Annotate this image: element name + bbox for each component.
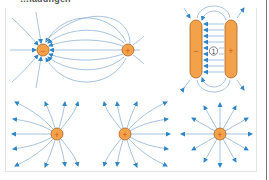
pair-right-sign: +	[122, 130, 127, 140]
capacitor-marker-label: 1	[212, 48, 216, 55]
field-lines-figure: − + − + 1	[0, 0, 269, 180]
pair-left-sign: +	[54, 130, 59, 140]
two-positive-charges	[51, 128, 131, 140]
plate-positive-sign: +	[228, 46, 233, 56]
two-positive-diagram	[12, 102, 170, 167]
positive-sign: +	[125, 46, 130, 56]
plate-negative-sign: −	[193, 46, 198, 56]
single-positive-sign: +	[217, 130, 222, 140]
negative-sign: −	[40, 46, 45, 56]
